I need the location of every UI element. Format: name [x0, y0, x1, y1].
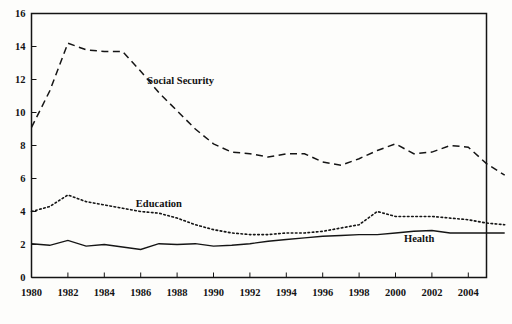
chart-background — [0, 0, 512, 324]
x-tick-label: 1992 — [239, 287, 260, 298]
x-tick-label: 1994 — [276, 287, 298, 298]
y-tick-label: 10 — [15, 107, 26, 118]
x-tick-label: 2004 — [458, 287, 480, 298]
x-tick-label: 1984 — [94, 287, 116, 298]
x-tick-label: 1986 — [130, 287, 151, 298]
chart-page: 0246810121416 19801982198419861988199019… — [0, 0, 512, 324]
x-tick-label: 1988 — [167, 287, 188, 298]
series-label-education: Education — [136, 198, 182, 209]
y-tick-label: 6 — [20, 173, 25, 184]
y-tick-label: 14 — [15, 41, 26, 52]
series-label-social-security: Social Security — [147, 75, 215, 86]
y-tick-label: 0 — [20, 272, 25, 283]
y-tick-label: 4 — [20, 206, 26, 217]
y-tick-label: 16 — [15, 8, 26, 19]
x-tick-label: 1998 — [349, 287, 370, 298]
y-tick-label: 12 — [15, 74, 26, 85]
x-tick-label: 1980 — [21, 287, 42, 298]
x-tick-label: 2002 — [421, 287, 442, 298]
y-tick-label: 2 — [20, 239, 25, 250]
y-tick-label: 8 — [20, 140, 25, 151]
line-chart: 0246810121416 19801982198419861988199019… — [0, 0, 512, 324]
series-label-health: Health — [404, 233, 434, 244]
x-tick-label: 1996 — [312, 287, 333, 298]
x-tick-label: 1982 — [57, 287, 78, 298]
x-tick-label: 2000 — [385, 287, 406, 298]
x-tick-label: 1990 — [203, 287, 224, 298]
